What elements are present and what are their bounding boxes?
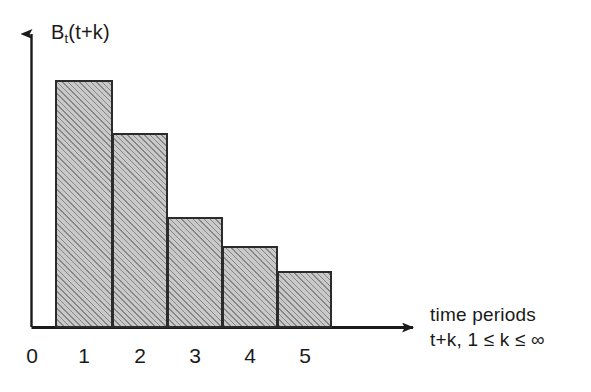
bar-3 [167,217,223,328]
x-tick-label-0: 0 [17,345,47,366]
x-tick-label-5: 5 [290,345,320,366]
bar-4 [222,246,278,328]
y-axis-label-main: B [51,21,65,43]
y-axis-label-suffix: (t+k) [68,21,110,43]
bar-2 [112,133,168,328]
x-axis-label: time periods t+k, 1 ≤ k ≤ ∞ [430,302,545,352]
y-axis-label: Bt(t+k) [51,22,110,42]
x-tick-label-2: 2 [125,345,155,366]
x-axis-label-line1: time periods [430,302,545,327]
x-tick-label-1: 1 [69,345,99,366]
x-tick-label-4: 4 [235,345,265,366]
x-tick-label-3: 3 [180,345,210,366]
bar-chart-figure: Bt(t+k) time periods t+k, 1 ≤ k ≤ ∞ 0 1 … [0,0,591,392]
y-axis-label-subscript: t [65,31,69,46]
bar-5 [277,271,332,328]
x-axis-label-line2: t+k, 1 ≤ k ≤ ∞ [430,327,545,352]
bar-1 [55,80,113,328]
